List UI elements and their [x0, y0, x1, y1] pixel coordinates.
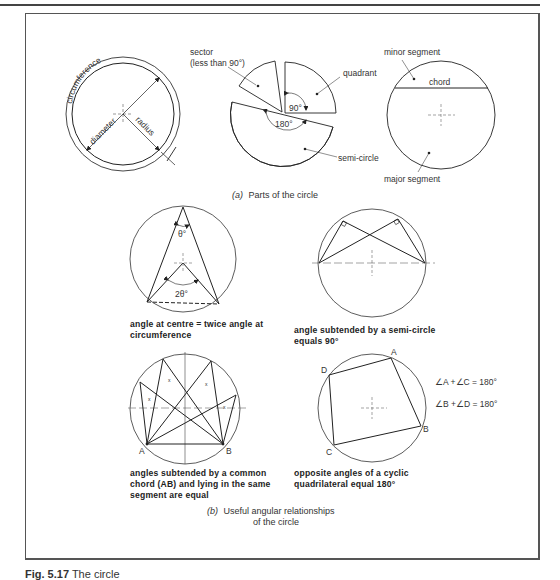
- svg-text:x: x: [148, 396, 151, 402]
- segment-diagram: minor segment chord major segment: [384, 47, 495, 184]
- sector-label: sector: [190, 47, 213, 57]
- common-chord-diagram: x x x x A B: [128, 352, 247, 464]
- figure-title: The circle: [72, 568, 120, 580]
- quad-point-c: C: [326, 447, 332, 457]
- svg-text:x: x: [205, 381, 208, 387]
- semicircle-desc-1: angle subtended by a semi-circle: [294, 325, 436, 335]
- angle-180-label: 180°: [275, 119, 293, 129]
- semicircle-angle-diagram: [312, 209, 435, 317]
- quad-point-b: B: [423, 424, 429, 434]
- semicircle-label: semi-circle: [338, 153, 379, 163]
- centre-angle-desc-1: angle at centre = twice angle at: [130, 319, 263, 329]
- svg-text:x: x: [223, 404, 226, 410]
- common-chord-desc-2: chord (AB) and lying in the same: [130, 479, 271, 489]
- theta-label: θ°: [178, 229, 186, 239]
- sector-sublabel: (less than 90°): [190, 58, 245, 68]
- equation-a-c: ∠A +∠C = 180°: [435, 377, 497, 387]
- cyclic-quad-desc-2: quadrilateral equal 180°: [294, 479, 396, 489]
- circle-parts-diagram: circumference diameter radius: [64, 55, 180, 171]
- sector-diagram: sector (less than 90°) quadrant 90° 180°…: [190, 47, 379, 167]
- cyclic-quad-desc-1: opposite angles of a cyclic: [294, 468, 409, 478]
- major-segment-label: major segment: [384, 174, 441, 184]
- sector-shape: [239, 61, 282, 112]
- part-b-caption-2: of the circle: [253, 517, 299, 527]
- centre-angle-desc-2: circumference: [130, 330, 191, 340]
- part-b-caption-1: (b) Useful angular relationships: [207, 506, 335, 516]
- point-a-label: A: [139, 446, 145, 456]
- common-chord-desc-3: segment are equal: [130, 490, 209, 500]
- minor-segment-label: minor segment: [384, 47, 441, 57]
- common-chord-desc-1: angles subtended by a common: [130, 468, 266, 478]
- figure-number: Fig. 5.17: [25, 568, 69, 580]
- chord-label: chord: [429, 77, 451, 87]
- figure-caption: Fig. 5.17 The circle: [25, 568, 120, 580]
- quadrilateral-shape: [329, 358, 421, 445]
- diameter-line: [123, 78, 159, 114]
- two-theta-label: 2θ°: [175, 289, 188, 299]
- semicircle-desc-2: equals 90°: [294, 336, 339, 346]
- quad-point-a: A: [391, 347, 397, 357]
- point-b-label: B: [226, 446, 232, 456]
- quadrant-label: quadrant: [343, 68, 377, 78]
- svg-text:x: x: [168, 377, 171, 383]
- cyclic-quad-diagram: A B C D ∠A +∠C = 180° ∠B +∠D = 180°: [318, 347, 497, 462]
- diameter-label: diameter: [87, 116, 118, 147]
- centre-angle-diagram: θ° 2θ°: [130, 206, 236, 312]
- quad-point-d: D: [321, 365, 327, 375]
- part-a-caption: (a) Parts of the circle: [232, 190, 318, 200]
- angle-90-label: 90°: [289, 103, 302, 113]
- circumference-label: circumference: [64, 55, 103, 105]
- radius-label: radius: [134, 114, 157, 137]
- equation-b-d: ∠B +∠D = 180°: [435, 399, 497, 409]
